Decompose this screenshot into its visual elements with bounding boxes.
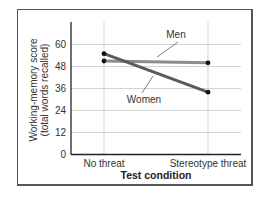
x-category-label: No threat <box>83 158 124 169</box>
line-chart: 01224364860 No threatStereotype threat M… <box>0 0 265 199</box>
x-category-label: Stereotype threat <box>170 158 247 169</box>
series-line-women <box>104 54 208 92</box>
gridlines <box>71 22 241 155</box>
y-tick-label: 0 <box>60 149 66 160</box>
y-axis-title: Working-memory score (total words recall… <box>28 38 50 142</box>
y-tick-label: 12 <box>55 127 67 138</box>
y-tick-label: 60 <box>55 39 67 50</box>
y-tick-label: 36 <box>55 83 67 94</box>
y-tick-labels: 01224364860 <box>55 39 67 160</box>
x-axis-title: Test condition <box>121 169 192 181</box>
series-lines <box>102 51 211 94</box>
data-point <box>206 60 211 65</box>
y-axis-title-line-2: (total words recalled) <box>39 44 50 137</box>
data-point <box>102 51 107 56</box>
leader-line-women <box>142 76 153 93</box>
y-tick-label: 24 <box>55 105 67 116</box>
series-labels: MenWomen <box>127 29 186 105</box>
series-line-men <box>104 61 208 63</box>
series-label-women: Women <box>127 94 161 105</box>
series-label-men: Men <box>166 29 185 40</box>
y-tick-label: 48 <box>55 61 67 72</box>
x-category-labels: No threatStereotype threat <box>83 158 246 169</box>
y-axis-title-line-1: Working-memory score <box>28 38 39 142</box>
data-point <box>206 90 211 95</box>
data-point <box>102 59 107 64</box>
